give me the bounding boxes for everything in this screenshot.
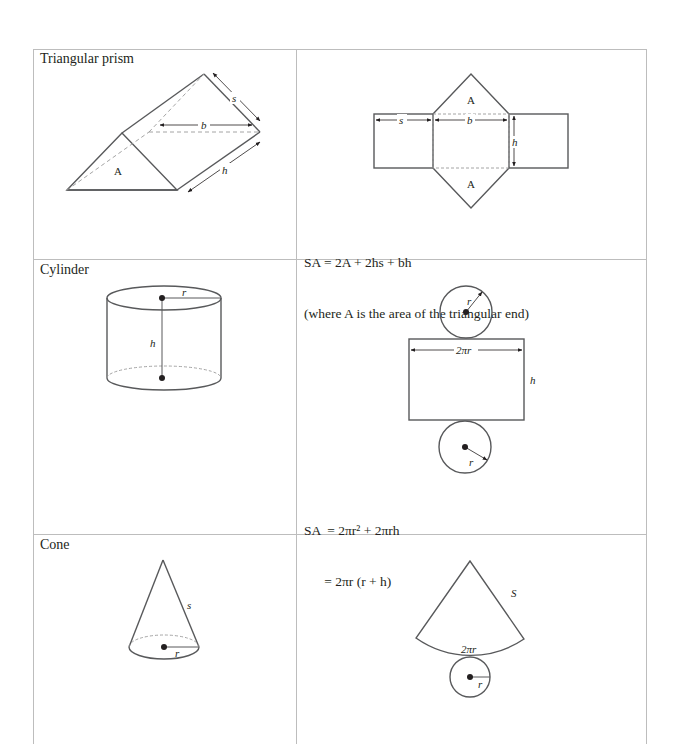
cylinder-label-h: h (150, 337, 156, 349)
prism-net-label-b: b (467, 114, 473, 126)
cylinder-net-label-2pir: 2πr (456, 344, 472, 356)
cone-center-dot (161, 644, 167, 650)
cylinder-net-label-r-bottom: r (469, 456, 474, 468)
cylinder-label-r: r (182, 286, 187, 298)
triangular-prism-solid (67, 73, 260, 192)
cone-label-s: s (187, 599, 191, 611)
cone-net-label-S: S (511, 587, 517, 599)
cone-label-r: r (175, 647, 180, 659)
cone-net-label-2pir: 2πr (461, 643, 477, 655)
cylinder-solid (107, 286, 221, 390)
cylinder-net-label-h: h (530, 374, 536, 386)
prism-label-s: s (232, 92, 236, 104)
cylinder-top-center-dot (159, 295, 165, 301)
prism-label-b: b (201, 119, 207, 131)
cylinder-net-bottom-dot (462, 444, 468, 450)
cylinder-net-label-r-top: r (467, 295, 472, 307)
prism-net-label-A-bottom: A (467, 178, 475, 190)
prism-label-A: A (114, 165, 122, 177)
prism-net-label-A-top: A (467, 94, 475, 106)
cone-net-label-r: r (478, 678, 483, 690)
cone-net-circle-dot (467, 674, 473, 680)
prism-net-label-h: h (512, 136, 518, 148)
cylinder-net-top-dot (463, 309, 469, 315)
prism-label-h: h (222, 164, 228, 176)
figures: b s h A s b h A A r h (0, 0, 674, 744)
prism-net-label-s: s (399, 114, 403, 126)
cylinder-bottom-center-dot (159, 375, 165, 381)
